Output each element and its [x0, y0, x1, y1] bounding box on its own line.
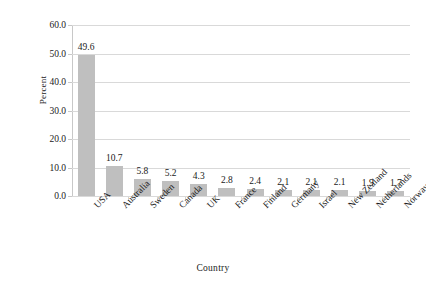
y-axis-tick-mark	[68, 168, 72, 169]
gridline	[72, 54, 410, 55]
bar-value-label: 1.7	[376, 178, 416, 188]
y-axis-tick-label: 50.0	[30, 49, 66, 59]
y-axis-tick-label: 10.0	[30, 163, 66, 173]
x-axis-category-label: USA	[92, 203, 99, 210]
y-axis-tick-mark	[68, 82, 72, 83]
x-axis-category-label: Canada	[177, 203, 184, 210]
x-axis-category-label: Germany	[289, 203, 296, 210]
y-axis-tick-label: 60.0	[30, 20, 66, 30]
y-axis-tick-mark	[68, 25, 72, 26]
x-axis-category-label: Netherlands	[374, 203, 381, 210]
gridline	[72, 111, 410, 112]
x-axis-category-label: Norway	[402, 203, 409, 210]
y-axis-tick-mark	[68, 111, 72, 112]
gridline	[72, 25, 410, 26]
bar-chart: Percent 60.050.040.030.020.010.00.0 Coun…	[0, 0, 426, 294]
y-axis-tick-mark	[68, 54, 72, 55]
bar	[106, 166, 123, 196]
y-axis-tick-label: 20.0	[30, 134, 66, 144]
bar-value-label: 10.7	[94, 153, 134, 163]
y-axis-tick-label: 30.0	[30, 106, 66, 116]
gridline	[72, 139, 410, 140]
x-axis-title: Country	[0, 263, 426, 273]
y-axis-tick-labels: 60.050.040.030.020.010.00.0	[28, 0, 66, 294]
bar-value-label: 49.6	[66, 42, 106, 52]
x-axis-category-label: New Zealand	[346, 203, 353, 210]
x-axis-category-label: Australia	[120, 203, 127, 210]
x-axis-category-label: Israel	[317, 203, 324, 210]
gridline	[72, 82, 410, 83]
x-axis-category-label: France	[233, 203, 240, 210]
x-axis-category-label: Finland	[261, 203, 268, 210]
y-axis-tick-label: 40.0	[30, 77, 66, 87]
bar	[78, 55, 95, 196]
bar	[218, 188, 235, 196]
y-axis-tick-label: 0.0	[30, 191, 66, 201]
y-axis-tick-mark	[68, 196, 72, 197]
y-axis-tick-mark	[68, 139, 72, 140]
x-axis-category-label: UK	[205, 203, 212, 210]
x-axis-category-label: Sweden	[148, 203, 155, 210]
